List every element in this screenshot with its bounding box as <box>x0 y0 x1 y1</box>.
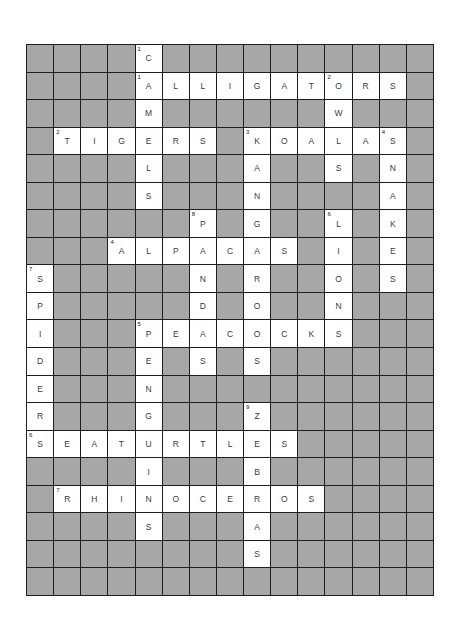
grid-cell-open[interactable]: A <box>380 183 406 210</box>
grid-cell-open[interactable]: E <box>380 238 406 265</box>
grid-cell-open[interactable]: E <box>244 431 270 458</box>
grid-cell-open[interactable]: 8P <box>190 210 216 237</box>
grid-cell-open[interactable]: 9Z <box>244 403 270 430</box>
grid-cell-open[interactable]: 5P <box>136 320 162 347</box>
grid-cell-open[interactable]: N <box>325 293 351 320</box>
grid-cell-open[interactable]: S <box>380 265 406 292</box>
grid-cell-open[interactable]: A <box>244 513 270 540</box>
grid-cell-open[interactable]: L <box>190 73 216 100</box>
grid-cell-open[interactable]: O <box>325 265 351 292</box>
grid-cell-open[interactable]: E <box>136 348 162 375</box>
grid-cell-open[interactable]: E <box>136 128 162 155</box>
grid-cell-open[interactable]: 4S <box>380 128 406 155</box>
grid-cell-open[interactable]: N <box>136 376 162 403</box>
grid-cell-open[interactable]: A <box>271 73 297 100</box>
grid-cell-open[interactable]: R <box>27 403 53 430</box>
grid-cell-open[interactable]: S <box>190 348 216 375</box>
grid-cell-open[interactable]: I <box>217 73 243 100</box>
grid-cell-open[interactable]: 6S <box>27 431 53 458</box>
grid-cell-open[interactable]: R <box>244 486 270 513</box>
grid-cell-open[interactable]: D <box>190 293 216 320</box>
grid-cell-open[interactable]: N <box>136 486 162 513</box>
grid-cell-open[interactable]: E <box>27 376 53 403</box>
grid-cell-open[interactable]: C <box>217 238 243 265</box>
grid-cell-open[interactable]: 2O <box>325 73 351 100</box>
grid-cell-open[interactable]: 7S <box>27 265 53 292</box>
grid-cell-open[interactable]: K <box>380 210 406 237</box>
grid-cell-open[interactable]: 4A <box>108 238 134 265</box>
grid-cell-open[interactable]: G <box>244 210 270 237</box>
grid-cell-open[interactable]: C <box>271 320 297 347</box>
grid-cell-blocked <box>163 45 189 72</box>
grid-cell-open[interactable]: W <box>325 100 351 127</box>
grid-cell-open[interactable]: 3K <box>244 128 270 155</box>
grid-cell-open[interactable]: S <box>136 513 162 540</box>
grid-cell-open[interactable]: E <box>217 486 243 513</box>
grid-cell-blocked <box>325 458 351 485</box>
grid-cell-open[interactable]: D <box>27 348 53 375</box>
grid-cell-open[interactable]: S <box>271 238 297 265</box>
grid-cell-open[interactable]: S <box>325 155 351 182</box>
grid-cell-open[interactable]: R <box>353 73 379 100</box>
grid-cell-open[interactable]: 6L <box>325 210 351 237</box>
grid-cell-open[interactable]: P <box>27 293 53 320</box>
grid-cell-open[interactable]: 7R <box>54 486 80 513</box>
grid-cell-open[interactable]: O <box>244 320 270 347</box>
grid-cell-open[interactable]: T <box>108 431 134 458</box>
grid-cell-open[interactable]: S <box>325 320 351 347</box>
grid-cell-open[interactable]: L <box>217 431 243 458</box>
grid-cell-open[interactable]: O <box>271 128 297 155</box>
grid-cell-open[interactable]: S <box>136 183 162 210</box>
grid-cell-open[interactable]: L <box>325 128 351 155</box>
grid-cell-open[interactable]: R <box>163 128 189 155</box>
grid-cell-open[interactable]: A <box>190 320 216 347</box>
grid-cell-blocked <box>163 403 189 430</box>
grid-cell-open[interactable]: L <box>136 238 162 265</box>
grid-cell-open[interactable]: R <box>244 265 270 292</box>
grid-cell-open[interactable]: A <box>244 238 270 265</box>
grid-cell-open[interactable]: A <box>298 128 324 155</box>
grid-cell-open[interactable]: C <box>190 486 216 513</box>
grid-cell-open[interactable]: N <box>190 265 216 292</box>
grid-cell-open[interactable]: O <box>271 486 297 513</box>
grid-cell-open[interactable]: N <box>380 155 406 182</box>
grid-cell-open[interactable]: 1A <box>136 73 162 100</box>
grid-cell-open[interactable]: B <box>244 458 270 485</box>
grid-cell-open[interactable]: 2T <box>54 128 80 155</box>
grid-cell-open[interactable]: T <box>298 73 324 100</box>
grid-cell-open[interactable]: I <box>108 486 134 513</box>
grid-cell-open[interactable]: S <box>190 128 216 155</box>
grid-cell-open[interactable]: E <box>163 320 189 347</box>
grid-cell-open[interactable]: S <box>380 73 406 100</box>
grid-cell-open[interactable]: N <box>244 183 270 210</box>
grid-cell-open[interactable]: I <box>325 238 351 265</box>
grid-cell-open[interactable]: 1C <box>136 45 162 72</box>
grid-cell-open[interactable]: O <box>244 293 270 320</box>
grid-cell-open[interactable]: R <box>163 431 189 458</box>
grid-cell-open[interactable]: A <box>353 128 379 155</box>
grid-cell-open[interactable]: S <box>244 541 270 568</box>
grid-cell-open[interactable]: S <box>244 348 270 375</box>
grid-cell-open[interactable]: G <box>244 73 270 100</box>
grid-cell-open[interactable]: I <box>27 320 53 347</box>
grid-cell-open[interactable]: A <box>244 155 270 182</box>
grid-cell-open[interactable]: A <box>190 238 216 265</box>
grid-cell-open[interactable]: G <box>108 128 134 155</box>
grid-cell-open[interactable]: M <box>136 100 162 127</box>
grid-cell-open[interactable]: C <box>217 320 243 347</box>
grid-cell-open[interactable]: G <box>136 403 162 430</box>
grid-cell-open[interactable]: I <box>81 128 107 155</box>
grid-cell-open[interactable]: T <box>190 431 216 458</box>
grid-cell-open[interactable]: O <box>163 486 189 513</box>
grid-cell-open[interactable]: A <box>81 431 107 458</box>
grid-cell-open[interactable]: L <box>163 73 189 100</box>
grid-cell-open[interactable]: K <box>298 320 324 347</box>
grid-cell-open[interactable]: E <box>54 431 80 458</box>
grid-cell-open[interactable]: S <box>298 486 324 513</box>
grid-cell-open[interactable]: P <box>163 238 189 265</box>
grid-cell-open[interactable]: S <box>271 431 297 458</box>
grid-cell-open[interactable]: H <box>81 486 107 513</box>
grid-cell-open[interactable]: I <box>136 458 162 485</box>
grid-cell-open[interactable]: U <box>136 431 162 458</box>
grid-cell-open[interactable]: L <box>136 155 162 182</box>
